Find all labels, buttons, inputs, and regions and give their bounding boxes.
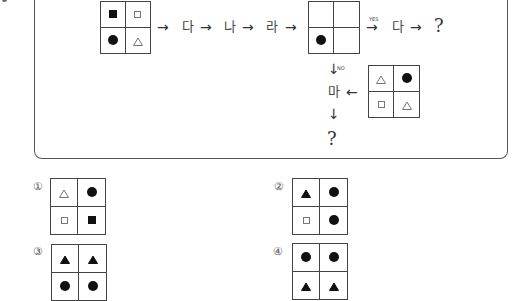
filled-circle-icon (301, 252, 311, 262)
option-1-number[interactable]: ① (33, 180, 43, 193)
grid-cell (394, 92, 419, 118)
empty-square-icon (378, 101, 385, 108)
empty-square-icon (134, 11, 141, 18)
filled-triangle-icon (329, 276, 339, 295)
grid-cell (52, 245, 79, 273)
filled-circle-icon (329, 187, 339, 197)
step-3: 라 (266, 20, 278, 34)
empty-square-icon (303, 217, 310, 224)
option-3-grid[interactable] (51, 244, 107, 301)
grid-cell (51, 207, 78, 235)
grid-cell (293, 272, 320, 300)
yes-step: 다 (392, 20, 404, 34)
start-grid (100, 1, 151, 54)
grid-cell (320, 207, 347, 235)
right-arrow-icon: → (200, 20, 212, 34)
yes-result: ? (434, 17, 444, 35)
grid-cell (126, 2, 151, 28)
grid-cell (320, 244, 347, 272)
filled-triangle-icon (301, 276, 311, 295)
left-arrow-icon: ← (346, 85, 358, 99)
grid-cell (293, 207, 320, 235)
grid-cell (334, 2, 359, 28)
grid-cell (126, 28, 151, 54)
grid-cell (320, 272, 347, 300)
right-arrow-icon: → (242, 20, 254, 34)
condition-grid (308, 1, 360, 54)
grid-cell (52, 273, 79, 301)
no-step: 마 (328, 85, 340, 99)
grid-cell (293, 244, 320, 272)
filled-square-icon (109, 10, 117, 18)
right-arrow-icon: → (157, 20, 169, 34)
filled-circle-icon (88, 281, 98, 291)
grid-cell (101, 2, 126, 28)
option-4-grid[interactable] (292, 243, 348, 300)
grid-cell (78, 179, 105, 207)
corner-mark (2, 0, 7, 2)
grid-cell (78, 207, 105, 235)
grid-cell (309, 2, 334, 28)
grid-cell (369, 66, 394, 92)
filled-triangle-icon (301, 183, 311, 202)
empty-triangle-icon (402, 95, 412, 114)
filled-square-icon (88, 216, 96, 224)
filled-triangle-icon (88, 249, 98, 268)
grid-cell (309, 28, 334, 54)
empty-triangle-icon (59, 183, 69, 202)
right-arrow-icon: → (285, 20, 297, 34)
option-2-grid[interactable] (292, 178, 348, 235)
right-arrow-icon: → (410, 20, 422, 34)
filled-triangle-icon (60, 249, 70, 268)
filled-circle-icon (329, 215, 339, 225)
filled-circle-icon (60, 281, 70, 291)
filled-circle-icon (108, 35, 118, 45)
grid-cell (79, 245, 106, 273)
option-1-grid[interactable] (50, 178, 106, 235)
step-2: 나 (224, 20, 236, 34)
empty-triangle-icon (376, 69, 386, 88)
option-2-number[interactable]: ② (274, 180, 284, 193)
grid-cell (394, 66, 419, 92)
grid-cell (101, 28, 126, 54)
grid-cell (79, 273, 106, 301)
grid-cell (369, 92, 394, 118)
grid-cell (293, 179, 320, 207)
no-label: NO (337, 65, 345, 71)
empty-square-icon (61, 217, 68, 224)
filled-circle-icon (87, 187, 97, 197)
no-result: ? (327, 130, 337, 148)
filled-circle-icon (329, 252, 339, 262)
grid-cell (334, 28, 359, 54)
option-4-number[interactable]: ④ (273, 245, 283, 258)
step-1: 다 (182, 20, 194, 34)
side-grid (368, 65, 420, 118)
grid-cell (320, 179, 347, 207)
grid-cell (51, 179, 78, 207)
right-arrow-icon: → (366, 20, 378, 34)
empty-triangle-icon (133, 31, 143, 50)
filled-circle-icon (316, 35, 326, 45)
filled-circle-icon (402, 73, 412, 83)
down-arrow-icon: ↓ (328, 107, 340, 121)
option-3-number[interactable]: ③ (33, 245, 43, 258)
